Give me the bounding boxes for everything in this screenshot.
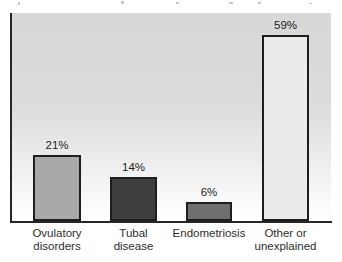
value-label-other-or-unexplained: 59% (274, 19, 297, 32)
crop-artifact (18, 2, 20, 5)
crop-artifact (258, 2, 261, 4)
crop-artifact (229, 2, 233, 4)
value-label-endometriosis: 6% (201, 186, 218, 199)
x-axis-line (10, 221, 332, 223)
bar-tubal-disease (110, 177, 157, 221)
crop-artifact (176, 2, 179, 4)
category-label-other-or-unexplained: Other or unexplained (236, 227, 336, 253)
crop-artifact (121, 1, 124, 4)
crop-artifact (309, 3, 312, 4)
y-axis-line (10, 13, 12, 223)
bar-other-or-unexplained (262, 35, 309, 221)
value-label-ovulatory-disorders: 21% (45, 139, 68, 152)
bar-chart-figure: 21%Ovulatory disorders14%Tubal disease6%… (0, 0, 342, 262)
bar-ovulatory-disorders (33, 155, 81, 221)
value-label-tubal-disease: 14% (122, 161, 145, 174)
bar-endometriosis (186, 202, 232, 221)
